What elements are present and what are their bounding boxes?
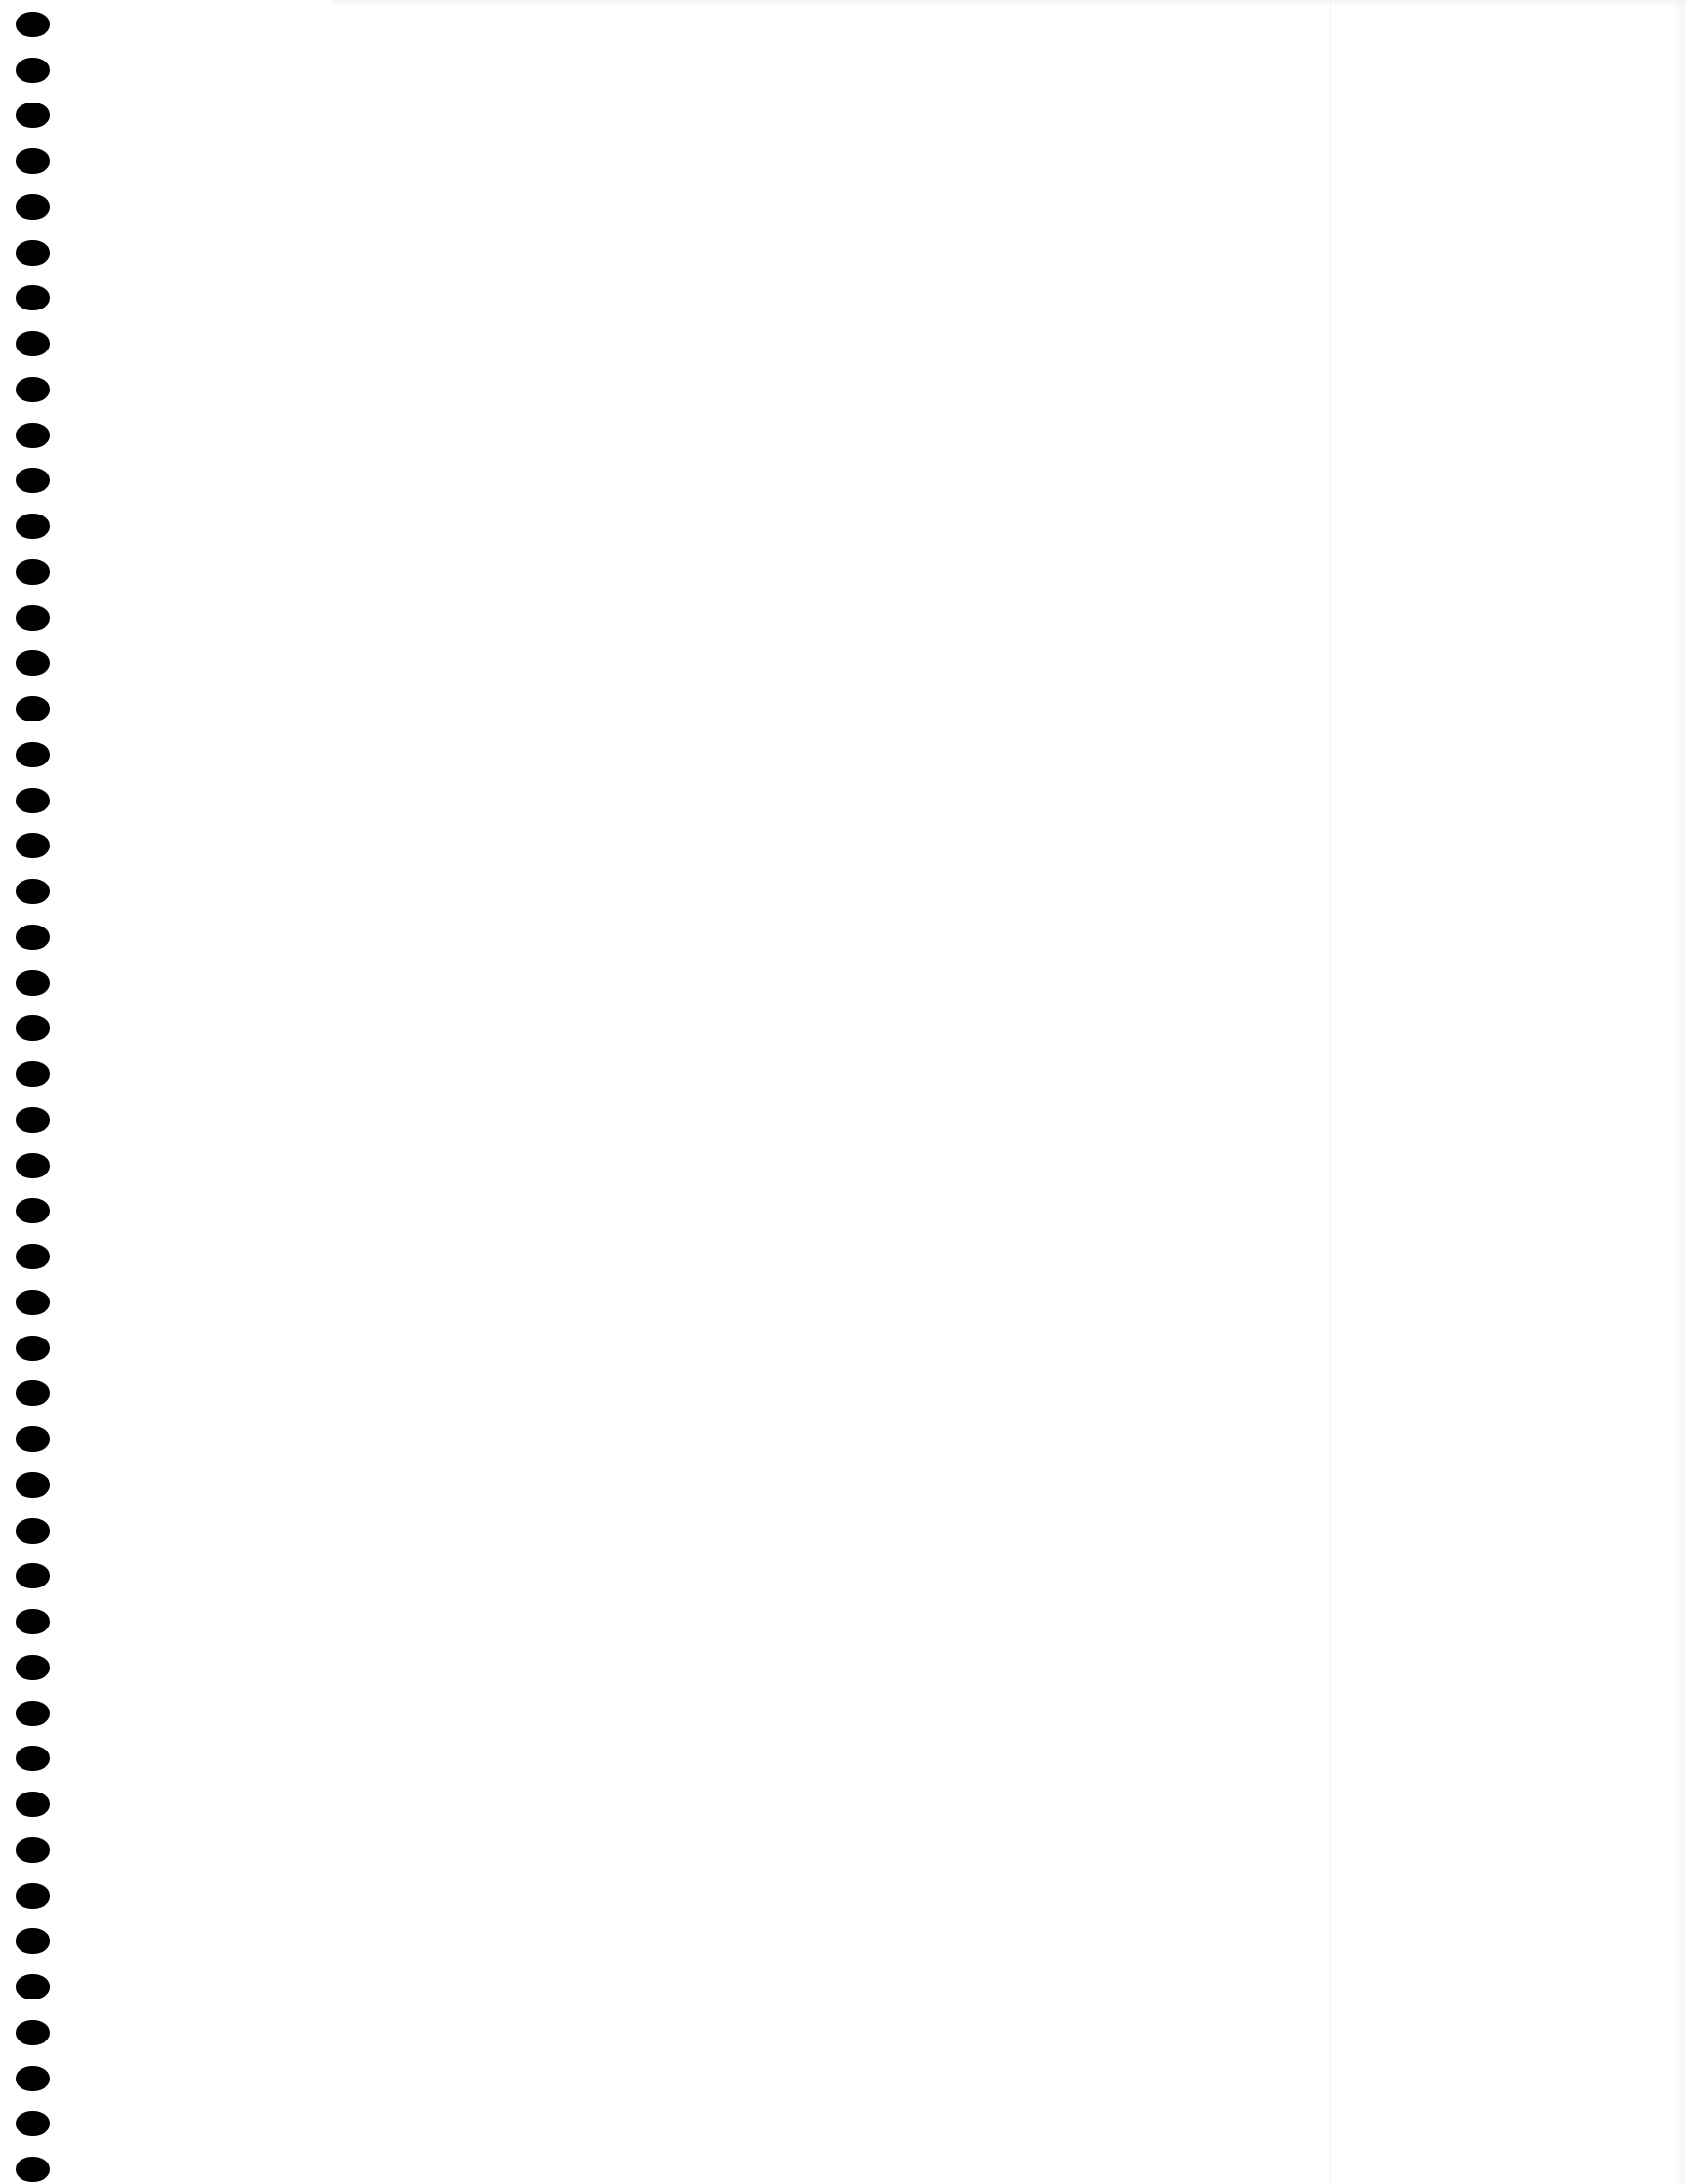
binding-hole <box>16 1336 50 1361</box>
binding-hole <box>16 1244 50 1269</box>
binding-hole <box>16 1107 50 1133</box>
binding-hole <box>16 879 50 904</box>
binding-hole <box>16 1837 50 1863</box>
binding-hole <box>16 377 50 402</box>
binding-hole <box>16 1015 50 1041</box>
binding-hole <box>16 2020 50 2045</box>
binding-hole <box>16 742 50 767</box>
binding-hole <box>16 1609 50 1634</box>
scan-artifact-top <box>332 0 1685 6</box>
binding-hole <box>16 1883 50 1909</box>
binding-hole <box>16 833 50 858</box>
binding-hole <box>16 925 50 950</box>
binding-hole <box>16 1563 50 1588</box>
blank-page <box>0 0 1685 2184</box>
binding-hole <box>16 1792 50 1817</box>
binding-hole <box>16 2157 50 2182</box>
binding-hole <box>16 514 50 539</box>
binding-hole <box>16 1061 50 1087</box>
binding-hole <box>16 331 50 356</box>
binding-hole <box>16 650 50 676</box>
binding-hole <box>16 696 50 721</box>
binding-hole <box>16 285 50 310</box>
binding-hole <box>16 1380 50 1406</box>
binding-hole <box>16 1153 50 1178</box>
scan-artifact-right <box>1671 0 1685 2184</box>
binding-hole <box>16 148 50 174</box>
binding-hole <box>16 1746 50 1771</box>
scan-artifact-line <box>1330 0 1331 2184</box>
binding-hole <box>16 970 50 996</box>
binding-hole <box>16 788 50 813</box>
binding-hole <box>16 559 50 585</box>
binding-hole <box>16 240 50 266</box>
binding-hole <box>16 58 50 83</box>
binding-hole <box>16 1198 50 1223</box>
binding-hole <box>16 1290 50 1315</box>
binding-hole <box>16 1426 50 1452</box>
binding-hole <box>16 468 50 493</box>
binding-hole <box>16 1472 50 1498</box>
binding-hole <box>16 2111 50 2136</box>
binding-hole <box>16 1655 50 1680</box>
binding-hole <box>16 423 50 448</box>
binding-hole <box>16 12 50 37</box>
binding-hole <box>16 1518 50 1544</box>
binding-hole <box>16 1701 50 1726</box>
binding-hole <box>16 1928 50 1954</box>
binding-holes <box>16 0 51 2184</box>
binding-hole <box>16 103 50 128</box>
binding-hole <box>16 2066 50 2091</box>
binding-hole <box>16 194 50 220</box>
binding-hole <box>16 605 50 631</box>
binding-hole <box>16 1974 50 1999</box>
